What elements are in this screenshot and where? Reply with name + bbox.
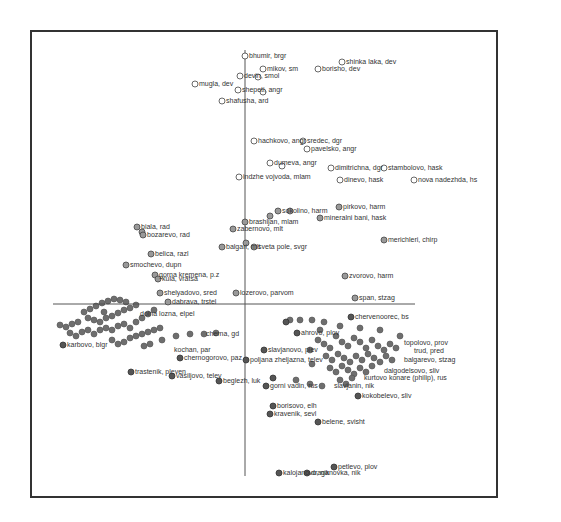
point-label: kurtovo konare (philip), rus: [364, 374, 447, 382]
point-label: beglezh, luk: [223, 377, 261, 385]
scatter-plot: bhumir, brgr shinka laka, dev mikov, sm …: [0, 0, 561, 522]
point-label: dabrava, trstel: [172, 298, 217, 305]
data-point[interactable]: [267, 411, 273, 417]
point-label: pavelsko, angr: [311, 145, 357, 153]
data-point[interactable]: [233, 290, 239, 296]
point-label: biala, rad: [141, 223, 170, 230]
data-point[interactable]: [348, 314, 354, 320]
data-point[interactable]: [355, 393, 361, 399]
data-point[interactable]: [243, 357, 249, 363]
data-point[interactable]: [315, 66, 321, 72]
data-point[interactable]: [128, 369, 134, 375]
data-point[interactable]: [336, 204, 342, 210]
data-point[interactable]: [317, 215, 323, 221]
data-point[interactable]: [148, 251, 154, 257]
point-label: karbovo, blgr: [67, 341, 108, 349]
point-label: dumeva, angr: [274, 159, 317, 167]
data-point[interactable]: [267, 160, 273, 166]
data-point[interactable]: [352, 295, 358, 301]
point-label: sveta pole, svgr: [258, 243, 308, 251]
point-label: slavjanovo, plev: [268, 346, 318, 354]
data-point[interactable]: [235, 87, 241, 93]
data-point[interactable]: [251, 138, 257, 144]
data-point[interactable]: [60, 342, 66, 348]
point-label: stambolovo, hask: [388, 164, 443, 171]
data-point[interactable]: [123, 262, 129, 268]
point-label: zabernovo, mlt: [237, 225, 283, 232]
point-label: kula, vratsa: [162, 275, 198, 282]
point-label: sredec, dgr: [307, 137, 343, 145]
point-label: balgarevo, stzag: [404, 356, 455, 364]
point-label: mikov, sm: [267, 65, 298, 72]
data-point[interactable]: [275, 208, 281, 214]
data-point[interactable]: [165, 299, 171, 305]
point-label: slavjanin, nik: [334, 382, 375, 390]
data-point[interactable]: [283, 319, 289, 325]
data-point[interactable]: [219, 244, 225, 250]
data-point[interactable]: [315, 419, 321, 425]
data-point[interactable]: [342, 273, 348, 279]
point-label: shafusha, ard: [226, 97, 269, 104]
point-label: shepeti, angr: [242, 86, 283, 94]
data-point[interactable]: [337, 177, 343, 183]
point-label: shelyadovo, sred: [164, 289, 217, 297]
point-label: chernogorovo, paz: [184, 354, 242, 362]
data-point[interactable]: [270, 403, 276, 409]
point-label: ahrovo, plov: [301, 329, 340, 337]
data-point[interactable]: [263, 383, 269, 389]
data-point[interactable]: [304, 146, 310, 152]
point-label: nova nadezhda, hs: [418, 176, 478, 183]
point-label: smochevo, dupn: [130, 261, 181, 269]
point-label: balgari, mlt: [226, 243, 260, 251]
point-label: trud, pred: [414, 347, 444, 355]
point-label: devin, smol: [244, 72, 280, 79]
data-point[interactable]: [134, 224, 140, 230]
point-label: belica, razl: [155, 250, 189, 257]
point-label: indzhe vojvoda, mlam: [243, 173, 311, 181]
point-label: kokobelevo, sliv: [362, 392, 412, 399]
data-point[interactable]: [140, 232, 146, 238]
point-label: dimitrichna, dgr: [335, 164, 384, 172]
point-label: poljana zheljazna, telev: [250, 356, 323, 364]
data-point[interactable]: [261, 347, 267, 353]
point-label: sokolino, harm: [282, 207, 328, 214]
point-label: belene, svisht: [322, 418, 365, 425]
data-point[interactable]: [237, 73, 243, 79]
data-point[interactable]: [270, 375, 276, 381]
point-label: dinevo, hask: [344, 176, 384, 183]
data-point[interactable]: [242, 53, 248, 59]
data-point[interactable]: [381, 237, 387, 243]
point-label: vasiljovo, telev: [176, 372, 222, 380]
point-label: span, stzag: [359, 294, 395, 302]
point-label: merichleri, chirp: [388, 236, 438, 244]
point-label: borisovo, elh: [277, 402, 317, 409]
point-label: mugla, dev: [199, 80, 234, 88]
data-point[interactable]: [192, 81, 198, 87]
point-label: kravenik, sevl: [274, 410, 317, 417]
data-point[interactable]: [294, 330, 300, 336]
point-label: kochan, par: [174, 346, 211, 354]
point-label: topolovo, prov: [404, 339, 448, 347]
point-label: zvorovo, harm: [349, 272, 394, 279]
point-label: bhumir, brgr: [249, 52, 287, 60]
point-label: chervenoorec, bs: [355, 313, 409, 320]
point-label: pirkovo, harm: [343, 203, 386, 211]
point-label: shinka laka, dev: [346, 58, 397, 65]
point-label: cherna, gd: [206, 330, 239, 338]
data-point[interactable]: [230, 226, 236, 232]
data-point[interactable]: [328, 165, 334, 171]
point-label: lozerovo, parvom: [240, 289, 294, 297]
point-label: mineralni bani, hask: [324, 214, 387, 221]
point-label: gorni vadin, rus: [270, 382, 318, 390]
data-point[interactable]: [157, 290, 163, 296]
data-point[interactable]: [276, 470, 282, 476]
data-point[interactable]: [236, 174, 242, 180]
data-point[interactable]: [177, 355, 183, 361]
data-point[interactable]: [411, 177, 417, 183]
point-label: borisho, dev: [322, 65, 361, 72]
point-label: dolna lozna, elpel: [140, 310, 195, 318]
point-label: hachkovo, angr: [258, 137, 307, 145]
point-label: bozarevo, rad: [147, 231, 190, 238]
data-point[interactable]: [219, 98, 225, 104]
point-label: draganovka, nik: [311, 469, 361, 477]
